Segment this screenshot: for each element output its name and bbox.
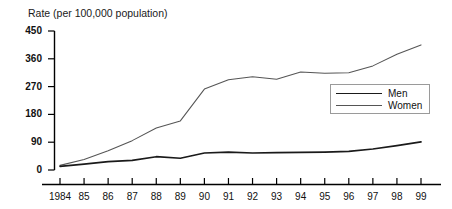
y-tick-label: 180 xyxy=(8,109,42,119)
legend-swatch-men-icon xyxy=(336,93,382,94)
x-tick-label: 99 xyxy=(401,192,441,202)
legend-item-women: Women xyxy=(336,100,428,112)
x-axis-ticks xyxy=(60,178,421,185)
y-tick-label: 450 xyxy=(8,26,42,36)
line-chart: Rate (per 100,000 population) 0901802703… xyxy=(0,0,452,209)
y-tick-label: 90 xyxy=(8,137,42,147)
y-axis-ticks xyxy=(48,31,55,170)
y-tick-label: 360 xyxy=(8,54,42,64)
legend: Men Women xyxy=(330,84,430,114)
y-tick-label: 0 xyxy=(8,165,42,175)
legend-item-men: Men xyxy=(336,88,428,100)
legend-swatch-women-icon xyxy=(336,105,382,106)
legend-label-women: Women xyxy=(388,100,422,112)
legend-label-men: Men xyxy=(388,88,407,100)
series-line-men xyxy=(60,142,421,166)
y-tick-label: 270 xyxy=(8,82,42,92)
